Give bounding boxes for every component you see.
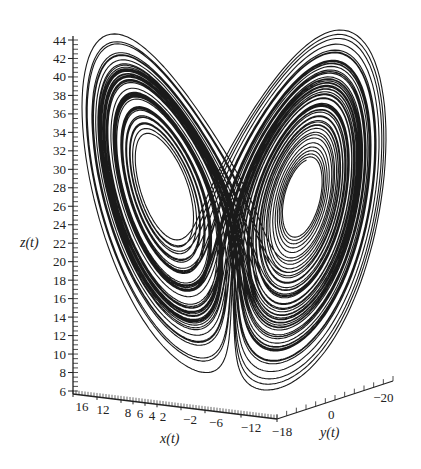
attractor-curve xyxy=(82,30,386,390)
x-tick-label: 6 xyxy=(137,406,144,421)
attractor-path xyxy=(82,30,386,390)
z-tick-label: 18 xyxy=(53,273,66,288)
z-tick-label: 40 xyxy=(53,69,66,84)
lorenz-attractor-plot: 44424038363432302826242220181614121086 z… xyxy=(0,0,421,469)
z-tick-label: 26 xyxy=(53,199,67,214)
z-tick-label: 24 xyxy=(53,217,67,232)
z-axis-ticks: 44424038363432302826242220181614121086 xyxy=(53,33,73,399)
y-tick-label: 0 xyxy=(328,407,335,422)
z-tick-label: 20 xyxy=(53,254,66,269)
z-tick-label: 30 xyxy=(53,162,66,177)
x-tick-label: −18 xyxy=(272,424,292,439)
x-tick-label: 2 xyxy=(160,409,167,424)
z-tick-label: 36 xyxy=(53,106,67,121)
z-axis-title: z(t) xyxy=(19,235,39,251)
z-tick-label: 8 xyxy=(60,365,67,380)
z-tick-label: 12 xyxy=(53,328,66,343)
z-tick-label: 38 xyxy=(53,88,66,103)
x-tick-label: −12 xyxy=(241,420,261,435)
x-tick-label: 12 xyxy=(97,402,110,417)
z-tick-label: 28 xyxy=(53,180,66,195)
z-tick-label: 32 xyxy=(53,143,66,158)
y-tick-label: −20 xyxy=(373,390,393,405)
z-tick-label: 10 xyxy=(53,347,66,362)
z-tick-label: 44 xyxy=(53,33,67,48)
x-tick-label: 8 xyxy=(125,405,132,420)
z-tick-label: 34 xyxy=(53,125,67,140)
x-axis-title: x(t) xyxy=(159,431,180,447)
x-tick-label: 16 xyxy=(76,399,90,414)
z-tick-label: 42 xyxy=(53,51,66,66)
z-tick-label: 14 xyxy=(53,310,67,325)
x-tick-label: −2 xyxy=(183,412,197,427)
y-axis-ticks: 0−20 xyxy=(328,390,394,422)
z-tick-label: 22 xyxy=(53,236,66,251)
z-tick-label: 16 xyxy=(53,291,67,306)
z-tick-label: 6 xyxy=(60,384,67,399)
x-tick-label: −6 xyxy=(209,415,223,430)
z-axis-minor-ticks xyxy=(73,40,78,391)
x-tick-label: 4 xyxy=(149,408,156,423)
y-axis-title: y(t) xyxy=(318,425,340,441)
